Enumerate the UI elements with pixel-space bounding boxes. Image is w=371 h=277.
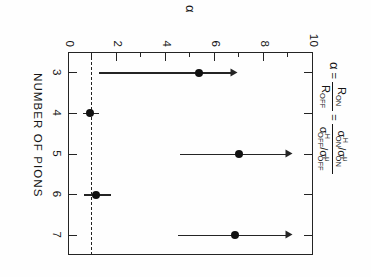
pion-axis-title: NUMBER OF PIONS [32,73,44,197]
pion-ticklabel-6: 6 [51,184,63,204]
formula-equals-1: = [328,73,340,79]
alpha-definition-formula: α = RON ROFF = σHON/σμON σHOFF/σμOFF [316,62,349,174]
sigma-4-sub: OFF [316,156,325,171]
formula-sigma-off: σHOFF/σμOFF [316,124,332,174]
alpha-minor-tick-7 [238,52,239,57]
alpha-ticklabel-6: 6 [210,25,222,47]
pion-tick-top-6 [304,194,313,195]
formula-sigma-on: σHON/σμON [332,124,349,174]
alpha-tick-10 [312,52,313,61]
pion-tick-7 [68,235,77,236]
formula-R-off-sub: OFF [318,93,327,108]
alpha-tick-4 [165,52,166,61]
pion-tick-top-5 [304,154,313,155]
pion-ticklabel-5: 5 [51,144,63,164]
pion-tick-top-3 [304,72,313,73]
pion-ticklabel-4: 4 [51,103,63,123]
pion-tick-5 [68,154,77,155]
sigma-2-sub: ON [334,156,343,167]
alpha-ticklabel-8: 8 [259,25,271,47]
formula-alpha: α [327,62,342,70]
pion-ticklabel-7: 7 [51,225,63,245]
formula-equals-2: = [328,114,340,120]
formula-R-off: ROFF [318,82,332,111]
reference-line-alpha-1 [92,52,93,255]
errorbar-3 [99,72,234,74]
pion-tick-6 [68,194,77,195]
upper-limit-arrow-7 [286,230,293,238]
alpha-tick-8 [263,52,264,61]
formula-R-on: RON [332,82,347,111]
rotated-plot-stage: 10 8 6 4 2 0 α 3 4 5 6 7 NUMBER OF PIONS [0,0,371,277]
figure-root: 10 8 6 4 2 0 α 3 4 5 6 7 NUMBER OF PIONS [0,0,371,277]
upper-limit-arrow-3 [231,68,238,76]
alpha-ticklabel-0: 0 [64,25,76,47]
marker-3 [195,69,203,77]
alpha-tick-2 [116,52,117,61]
upper-limit-arrow-5 [286,149,293,157]
marker-6 [92,191,100,199]
alpha-minor-tick-3 [140,52,141,57]
alpha-tick-0 [68,52,69,61]
pion-tick-4 [68,113,77,114]
pion-tick-3 [68,72,77,73]
errorbar-5 [181,154,289,156]
sigma-3-sub: OFF [316,132,325,147]
sigma-1-sub: ON [334,136,343,147]
alpha-ticklabel-2: 2 [112,25,124,47]
alpha-axis-title: α [183,5,198,13]
pion-tick-top-4 [304,113,313,114]
formula-R-on-sub: ON [334,95,343,106]
alpha-minor-tick-9 [287,52,288,57]
formula-sigma-ratio: σHON/σμON σHOFF/σμOFF [316,124,349,174]
formula-R-ratio: RON ROFF [318,82,347,111]
alpha-minor-tick-5 [189,52,190,57]
pion-tick-top-7 [304,235,313,236]
alpha-tick-6 [214,52,215,61]
alpha-ticklabel-4: 4 [161,25,173,47]
marker-7 [231,231,239,239]
pion-ticklabel-3: 3 [51,62,63,82]
alpha-ticklabel-10: 10 [308,25,320,47]
